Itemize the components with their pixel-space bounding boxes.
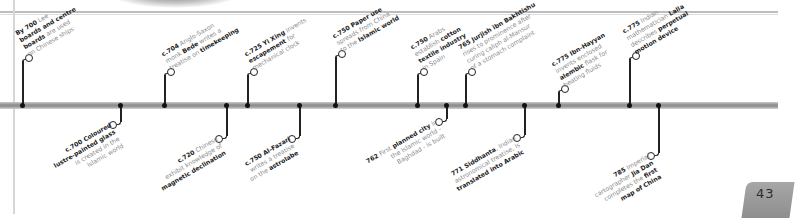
timeline-dot — [463, 103, 468, 108]
event-label-below: c.700 Colouredlustre-painted glassis cre… — [48, 121, 125, 184]
timeline-dot — [162, 103, 167, 108]
event-label-below: c.720 Chineseexhibit knowledge ofmagneti… — [151, 135, 227, 192]
timeline-dot — [556, 103, 561, 108]
timeline-dot — [224, 103, 229, 108]
event-label-below: 785 Imperialcartographer Jia Dancomplete… — [589, 152, 663, 213]
timeline-dot — [20, 103, 25, 108]
marker-stem — [22, 61, 24, 105]
marker-stem — [629, 59, 631, 105]
marker-stem — [164, 75, 166, 105]
timeline-dot — [444, 103, 449, 108]
event-label-above: c.750 Paper usespreads from Chinato the … — [331, 0, 401, 54]
timeline-bar — [0, 102, 778, 109]
marker-hook — [655, 152, 659, 156]
timeline-dot — [627, 103, 632, 108]
marker-hook — [117, 121, 121, 125]
marker-stem — [417, 75, 419, 105]
marker-stem — [226, 105, 228, 136]
timeline-dot — [245, 103, 250, 108]
timeline-dot — [415, 103, 420, 108]
header-image-shadow — [110, 0, 240, 8]
label-text: invents — [282, 16, 307, 34]
event-label-below: 762 First planned city inthe Islamic wor… — [365, 118, 447, 179]
marker-hook — [521, 134, 525, 138]
event-label-below: 771 Siddhanta, Indianastronomical treati… — [447, 134, 525, 193]
marker-hook — [223, 135, 227, 139]
marker-hook — [443, 118, 447, 122]
marker-stem — [335, 57, 337, 105]
event-label-above: c.775 Indianmathematician Lalladescribes… — [621, 0, 694, 56]
timeline-dot — [118, 103, 123, 108]
marker-stem — [658, 105, 660, 153]
event-label-above: c.725 Yi Xing inventsescapement formecha… — [243, 16, 316, 72]
marker-stem — [524, 105, 526, 135]
event-label-above: c.704 Anglo-Saxonmonk Bede writes atreat… — [160, 12, 240, 72]
event-label-below: c.750 Al-Fazariwrites a treatiseon the a… — [241, 135, 300, 183]
timeline-dot — [333, 103, 338, 108]
marker-stem — [247, 75, 249, 105]
page-number: 43 — [756, 186, 775, 201]
marker-stem — [465, 75, 467, 105]
event-label-above: By 700 Leeboards and centreboards are us… — [14, 0, 85, 58]
timeline-dot — [297, 103, 302, 108]
event-label-above: c.775 Ibn-Hayyaninvents enclosedalembic … — [550, 31, 618, 89]
timeline-dot — [522, 103, 527, 108]
marker-stem — [299, 105, 301, 136]
marker-hook — [296, 135, 300, 139]
timeline-dot — [656, 103, 661, 108]
